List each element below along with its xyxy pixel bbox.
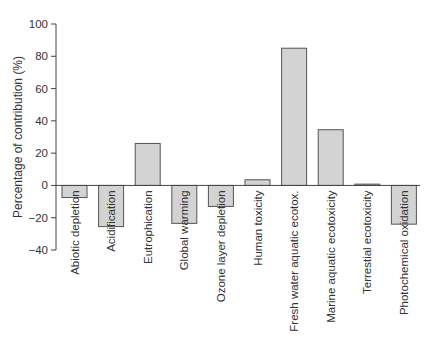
y-tick-label: 60 [35,83,48,95]
bar [135,143,160,185]
category-label: Marine aquatic ecotoxicity [325,190,337,323]
category-label: Eutrophication [142,190,154,264]
y-tick-label: 80 [35,50,48,62]
category-label: Global warming [178,190,190,270]
bar [282,48,307,185]
bar [318,130,343,186]
y-tick-label: 100 [29,18,48,30]
y-tick-label: −20 [28,212,48,224]
category-label: Human toxicity [252,190,264,266]
bar [245,180,270,186]
category-label: Terrestial ecotoxicity [361,190,373,294]
y-tick-label: 20 [35,147,48,159]
y-axis-title: Percentage of contribution (%) [11,56,25,218]
y-tick-label: −40 [28,244,48,256]
category-label: Fresh water aquatic ecotox. [288,190,300,331]
y-tick-label: 40 [35,115,48,127]
y-tick-label: 0 [42,179,48,191]
bar-chart: −40−20020406080100 Percentage of contrib… [0,0,432,341]
category-label: Ozone layer depletion [215,190,227,302]
category-label: Acidification [105,190,117,251]
category-label: Photochemical oxidation [398,190,410,315]
category-label: Abiotic depletion [69,190,81,274]
y-axis: −40−20020406080100 [28,18,56,256]
